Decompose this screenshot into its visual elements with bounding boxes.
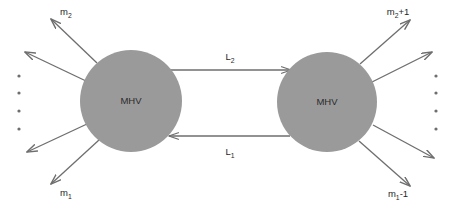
- ellipsis-dot: [434, 91, 437, 94]
- ray-label-right-top: m2+1: [387, 6, 410, 19]
- diagram-canvas: MHV MHV L2 L1 m2: [0, 0, 457, 210]
- ray-label-left-bottom-base: m: [60, 187, 68, 198]
- link-top-label: L2: [225, 51, 234, 64]
- ray-right-bottom-2: [359, 141, 410, 186]
- ray-left-bottom-2: [51, 140, 99, 184]
- ray-label-right-top-suffix: +1: [398, 6, 409, 17]
- ray-label-left-top-base: m: [60, 6, 68, 17]
- ellipsis-dot: [17, 74, 20, 77]
- ray-right-top-2: [372, 52, 432, 82]
- ellipsis-dot: [17, 127, 20, 130]
- ellipsis-dot: [434, 74, 437, 77]
- ray-label-right-top-base: m: [387, 6, 395, 17]
- ray-right-top-1: [360, 20, 410, 64]
- ellipsis-dot: [17, 91, 20, 94]
- ellipsis-right: [434, 74, 437, 130]
- ray-label-right-bottom-base: m: [388, 188, 396, 199]
- mhv-link-diagram: MHV MHV L2 L1 m2: [0, 0, 457, 210]
- ray-left-bottom-1: [27, 124, 87, 152]
- ray-left-top-1: [51, 19, 97, 63]
- ray-left-top-2: [25, 52, 86, 81]
- ellipsis-left: [17, 74, 20, 130]
- link-top-label-subscript: 2: [231, 57, 235, 64]
- node-group: MHV MHV: [80, 50, 377, 152]
- link-label-group: L2 L1: [225, 51, 234, 159]
- ellipsis-dot: [17, 109, 20, 112]
- link-group: [168, 70, 291, 136]
- ellipsis-dot: [434, 127, 437, 130]
- link-bottom-label-subscript: 1: [231, 152, 235, 159]
- ray-label-left-top: m2: [60, 6, 72, 19]
- link-bottom-label: L1: [225, 146, 234, 159]
- ray-label-right-bottom-suffix: -1: [400, 188, 408, 199]
- ellipsis-dot: [434, 109, 437, 112]
- mhv-node-right-label: MHV: [316, 96, 338, 107]
- ray-label-left-top-subscript: 2: [68, 12, 72, 19]
- ray-label-left-bottom-subscript: 1: [68, 193, 72, 200]
- ray-label-right-bottom: m1-1: [388, 188, 408, 201]
- mhv-node-left-label: MHV: [120, 95, 142, 106]
- ray-right-bottom-1: [373, 125, 434, 158]
- ray-label-left-bottom: m1: [60, 187, 72, 200]
